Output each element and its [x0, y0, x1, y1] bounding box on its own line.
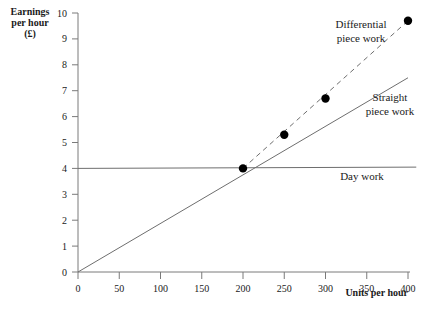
y-axis-ticks: [72, 13, 78, 272]
y-tick-label: 2: [62, 215, 67, 226]
x-tick-label: 250: [277, 283, 292, 294]
x-tick-label: 50: [114, 283, 124, 294]
x-axis-ticks: [78, 272, 408, 279]
y-tick-label: 8: [62, 59, 67, 70]
chart-canvas: 012345678910 050100150200250300350400 Un…: [0, 0, 423, 314]
series-label-differential-piece-work-line-1: Differential: [335, 18, 386, 30]
y-tick-label: 0: [62, 267, 67, 278]
x-tick-label: 200: [236, 283, 251, 294]
y-tick-label: 9: [62, 33, 67, 44]
series-label-straight-piece-work-line-1: Straight: [373, 91, 408, 103]
data-point: [280, 131, 288, 139]
y-tick-label: 1: [62, 241, 67, 252]
x-axis-title: Units per hour: [345, 287, 408, 298]
x-tick-label: 150: [194, 283, 209, 294]
y-tick-label: 6: [62, 111, 67, 122]
series-label-differential-piece-work-line-2: piece work: [337, 32, 386, 44]
series-label-straight-piece-work-line-2: piece work: [366, 105, 415, 117]
y-tick-label: 7: [62, 85, 67, 96]
series-label-day-work: Day work: [340, 170, 384, 182]
x-tick-label: 300: [318, 283, 333, 294]
y-tick-label: 4: [62, 163, 67, 174]
y-tick-label: 3: [62, 189, 67, 200]
series-lines: [78, 21, 416, 272]
y-axis: 012345678910: [57, 8, 78, 278]
data-point: [404, 17, 412, 25]
y-axis-tick-labels: 012345678910: [57, 8, 67, 278]
x-tick-label: 100: [153, 283, 168, 294]
y-tick-label: 5: [62, 137, 67, 148]
data-point: [321, 94, 329, 102]
x-tick-label: 0: [76, 283, 81, 294]
data-point: [239, 164, 247, 172]
y-tick-label: 10: [57, 8, 67, 19]
chart-page: Earnings per hour (£) 012345678910 05010…: [0, 0, 423, 314]
